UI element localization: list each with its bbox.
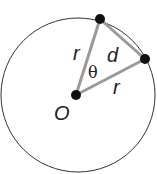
circle-chord-diagram: r d θ r O <box>0 0 157 174</box>
label-angle: θ <box>88 63 98 82</box>
label-center: O <box>54 102 70 124</box>
label-radius-left: r <box>73 42 81 64</box>
label-radius-bottom: r <box>113 76 121 98</box>
label-chord: d <box>107 44 119 66</box>
point-top <box>95 14 105 24</box>
point-right <box>140 54 150 64</box>
center-point <box>71 90 81 100</box>
